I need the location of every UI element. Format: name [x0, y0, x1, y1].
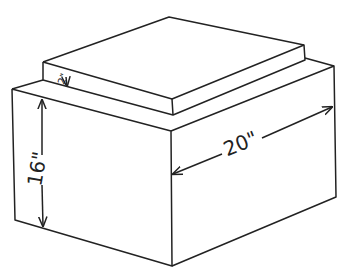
box-diagram: 16" 20" 2" — [0, 0, 343, 275]
slab-thickness-label: 2" — [56, 72, 70, 86]
height-label: 16" — [22, 150, 52, 188]
top-slab — [43, 17, 305, 115]
width-label: 20" — [220, 126, 261, 161]
lower-box — [12, 58, 336, 266]
